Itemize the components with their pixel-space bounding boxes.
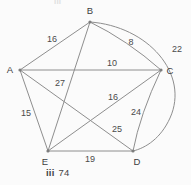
vertex-label-B: B — [87, 5, 93, 16]
vertex-dot-C — [159, 68, 162, 71]
vertex-label-A: A — [7, 64, 14, 75]
edge-weight-C-D: 24 — [131, 107, 141, 117]
figure-caption: iii74 — [46, 167, 70, 178]
figure-root: iii A B C D E 16 8 10 22 27 15 — [0, 0, 191, 185]
edge-weight-A-B: 16 — [47, 34, 57, 44]
edge-weight-E-D: 19 — [85, 154, 95, 164]
vertex-dot-E — [46, 149, 49, 152]
edge-weight-A-D: 25 — [112, 124, 122, 134]
vertex-label-C: C — [167, 65, 174, 76]
edge-weight-B-D: 22 — [172, 44, 182, 54]
edge-weight-A-E: 15 — [21, 108, 31, 118]
vertex-label-E: E — [42, 156, 48, 167]
vertex-dot-B — [88, 20, 91, 23]
edge-A-D — [20, 70, 133, 151]
edge-weight-B-C: 8 — [128, 37, 133, 47]
edge-A-B — [20, 22, 90, 70]
caption-value: 74 — [59, 167, 70, 178]
edge-weight-B-E: 27 — [55, 78, 65, 88]
edge-weight-A-C: 10 — [107, 58, 117, 68]
caption-label: iii — [46, 167, 55, 178]
edge-weight-C-E: 16 — [108, 92, 118, 102]
vertex-dot-D — [131, 149, 134, 152]
vertex-dot-A — [18, 68, 21, 71]
weighted-graph-diagram: A B C D E 16 8 10 22 27 15 16 24 25 19 — [0, 0, 191, 185]
vertex-label-D: D — [134, 156, 141, 167]
